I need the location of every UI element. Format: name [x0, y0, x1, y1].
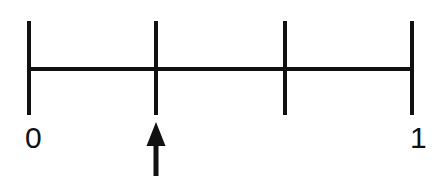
axis-label-start: 0 — [25, 123, 42, 153]
arrow-annotation — [147, 122, 166, 176]
number-line-graphic — [0, 0, 437, 176]
arrow-annotation-group — [147, 122, 166, 176]
arrow-head — [147, 122, 166, 146]
number-line-figure: 0 1 — [0, 0, 437, 176]
arrow-shaft — [154, 144, 159, 176]
axis-label-end: 1 — [410, 123, 427, 153]
